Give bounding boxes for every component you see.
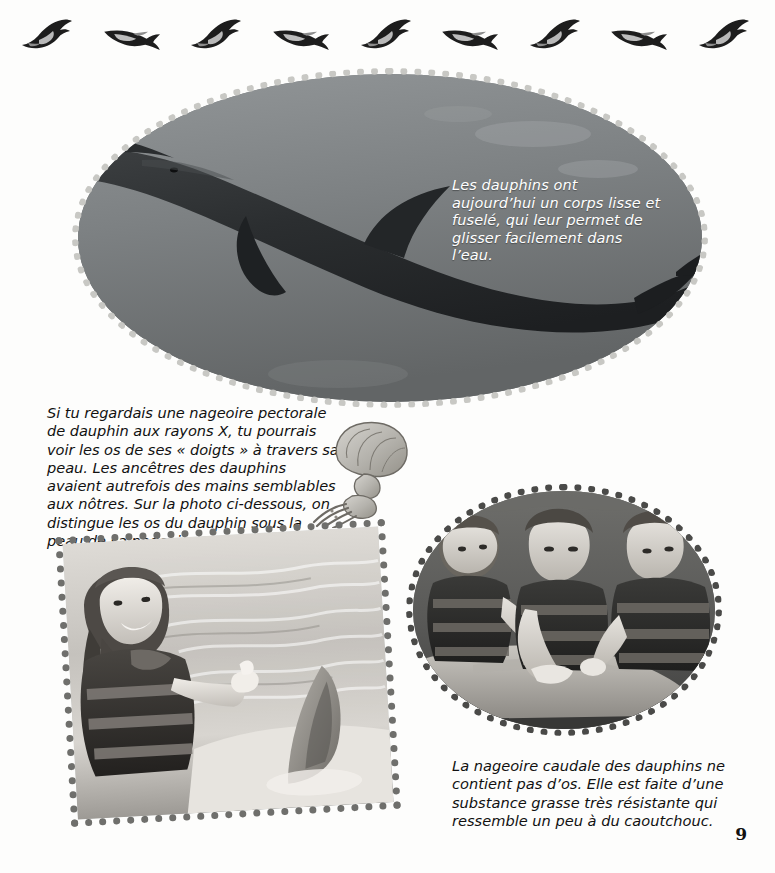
dolphin-silhouette-icon (695, 14, 757, 54)
page-number: 9 (735, 824, 747, 844)
dolphin-silhouette-icon (357, 14, 419, 54)
dolphin-silhouette-icon (606, 7, 676, 60)
girl-thumbs-up-with-dolphin-tail-photo-image (63, 526, 394, 819)
dolphin-silhouette-icon (187, 14, 249, 54)
dolphin-silhouette-icon (526, 14, 588, 54)
dolphin-silhouette-icon (98, 7, 168, 60)
children-touching-dolphin-photo (406, 484, 722, 736)
girl-dolphin-scene-illustration (63, 526, 394, 819)
book-page: Les dauphins ont aujourd’hui un corps li… (0, 0, 775, 873)
children-touching-dolphin-photo-image (413, 491, 715, 729)
dolphin-silhouette-icon (268, 7, 338, 60)
girl-thumbs-up-with-dolphin-tail-photo (55, 519, 401, 827)
flipper-bone-xray-drawing (312, 416, 420, 528)
dolphin-frieze (0, 8, 775, 60)
dolphin-silhouette-icon (18, 14, 80, 54)
bottom-caption: La nageoire caudale des dauphins ne cont… (452, 757, 752, 830)
dolphin-silhouette-icon (437, 7, 507, 60)
children-scene-illustration (413, 491, 715, 729)
oval-photo-caption: Les dauphins ont aujourd’hui un corps li… (452, 177, 662, 265)
